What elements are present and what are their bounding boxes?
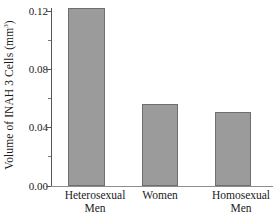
- y-tick-major-0.12: [46, 11, 51, 12]
- x-tick-label-women: Women: [120, 189, 200, 202]
- y-axis-title: Volume of INAH 3 Cells (mm3): [4, 20, 16, 170]
- y-tick-major-0.04: [46, 127, 51, 128]
- x-tick-label-heterosexual-men-line2: Men: [45, 202, 145, 215]
- y-axis-tick-labels: 0.12 0.08 0.04 0.00: [18, 0, 48, 223]
- y-tick-label-0.08: 0.08: [18, 64, 48, 75]
- y-tick-major-0.08: [46, 69, 51, 70]
- x-tick-label-heterosexual-men-line1: Heterosexual: [65, 189, 126, 201]
- x-tick-label-women-line1: Women: [142, 189, 177, 201]
- bar-chart-figure: Volume of INAH 3 Cells (mm3) 0.12 0.08 0…: [0, 0, 276, 223]
- y-tick-major-0.00: [46, 186, 51, 187]
- x-tick-label-homosexual-men-line1: Homosexual: [212, 189, 270, 201]
- y-axis-title-superscript: 3: [2, 24, 10, 28]
- x-axis-tick-labels: Heterosexual Men Women Homosexual Men: [51, 189, 276, 223]
- y-tick-label-0.12: 0.12: [18, 6, 48, 17]
- bar-homosexual-men: [215, 112, 251, 186]
- bar-heterosexual-men: [68, 8, 105, 186]
- y-tick-minor-0.10: [48, 40, 51, 41]
- x-tick-label-homosexual-men: Homosexual Men: [191, 189, 276, 215]
- y-axis-title-tail: ): [3, 20, 15, 24]
- bar-women: [142, 104, 178, 186]
- y-tick-label-0.04: 0.04: [18, 122, 48, 133]
- plot-area: [51, 8, 273, 187]
- x-tick-label-homosexual-men-line2: Men: [191, 202, 276, 215]
- y-tick-minor-0.06: [48, 98, 51, 99]
- y-axis-title-text: Volume of INAH 3 Cells (mm: [3, 28, 15, 170]
- y-tick-label-0.00: 0.00: [18, 181, 48, 192]
- y-axis-line: [51, 8, 52, 187]
- x-axis-line: [51, 186, 273, 187]
- y-tick-minor-0.02: [48, 156, 51, 157]
- y-axis-title-container: Volume of INAH 3 Cells (mm3): [0, 0, 20, 190]
